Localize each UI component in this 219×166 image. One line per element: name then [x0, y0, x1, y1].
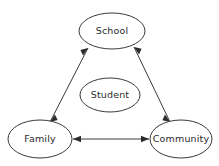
relationship-diagram: School Student Family Community [0, 0, 219, 166]
arrowhead-toward-school-right [134, 47, 142, 55]
edge-school-community-line [134, 47, 170, 122]
node-community-label: Community [153, 133, 210, 144]
diagram-canvas: School Student Family Community [0, 0, 219, 166]
arrowhead-toward-community-left [141, 136, 149, 142]
node-community[interactable]: Community [150, 120, 212, 158]
node-student-label: Student [91, 89, 130, 100]
edge-school-community [134, 47, 170, 122]
node-family[interactable]: Family [8, 120, 72, 158]
node-school-label: School [96, 25, 128, 36]
node-student[interactable]: Student [80, 78, 140, 112]
edge-family-school-line [50, 48, 88, 122]
node-school[interactable]: School [79, 13, 145, 49]
node-family-label: Family [24, 133, 56, 144]
arrowhead-toward-family-right [73, 136, 81, 142]
edge-family-school [50, 48, 88, 122]
arrowhead-toward-community-upper [162, 115, 170, 123]
edge-family-community [73, 136, 149, 142]
